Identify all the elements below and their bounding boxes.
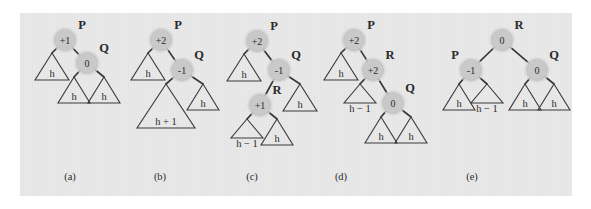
- subtree-height-label: h: [145, 68, 151, 79]
- subtree-height-label: h: [338, 68, 344, 79]
- subtree-height-label: h: [378, 131, 384, 142]
- panel-c: hhh − 1h+2P-1Q+1R(c): [227, 19, 317, 183]
- panel-caption: (c): [246, 171, 258, 183]
- subtree-height-label: h: [71, 91, 77, 102]
- subtree-height-label: h: [200, 98, 206, 109]
- panel-caption: (b): [154, 171, 167, 183]
- subtree-height-label: h: [297, 99, 303, 110]
- subtree-height-label: h: [551, 98, 557, 109]
- subtree-height-label: h: [49, 68, 55, 79]
- node-name-label: Q: [405, 81, 415, 95]
- panel-b: hh + 1h+2P-1Q(b): [131, 18, 219, 183]
- panel-d: hh − 1hh+2P+2R0Q(d): [324, 18, 427, 183]
- subtree-height-label: h + 1: [155, 116, 177, 127]
- subtree-height-label: h: [456, 98, 462, 109]
- subtree-height-label: h − 1: [236, 138, 258, 149]
- balance-factor-label: +2: [156, 35, 167, 46]
- diagram-layer: hhh+1P0Q(a)hh + 1h+2P-1Q(b)hhh − 1h+2P-1…: [35, 18, 570, 183]
- balance-factor-label: +2: [368, 65, 379, 76]
- balance-factor-label: 0: [85, 58, 90, 69]
- panel-a: hhh+1P0Q(a): [35, 18, 120, 183]
- subtree-height-label: h: [101, 91, 107, 102]
- node-name-label: R: [272, 83, 282, 97]
- node-name-label: Q: [194, 48, 204, 62]
- panel-caption: (d): [335, 171, 348, 183]
- subtree-triangle: [344, 84, 376, 103]
- subtree-height-label: h − 1: [476, 103, 498, 114]
- balance-factor-label: +2: [349, 35, 360, 46]
- balance-factor-label: +2: [252, 36, 263, 47]
- node-name-label: Q: [99, 41, 109, 55]
- node-name-label: P: [270, 19, 278, 33]
- node-name-label: Q: [291, 48, 301, 62]
- node-name-label: P: [367, 18, 375, 32]
- figure-drawing-canvas: hhh+1P0Q(a)hh + 1h+2P-1Q(b)hhh − 1h+2P-1…: [0, 0, 591, 209]
- subtree-height-label: h: [408, 131, 414, 142]
- balance-factor-label: -1: [178, 65, 186, 76]
- subtree-height-label: h: [274, 133, 280, 144]
- subtree-triangle: [471, 84, 503, 103]
- balance-factor-label: 0: [500, 35, 505, 46]
- tree-edge: [509, 46, 529, 63]
- subtree-triangle: [231, 119, 263, 138]
- node-name-label: Q: [549, 48, 559, 62]
- balance-factor-label: +1: [60, 35, 71, 46]
- subtree-height-label: h − 1: [349, 103, 371, 114]
- node-name-label: P: [174, 18, 182, 32]
- node-name-label: P: [78, 18, 86, 32]
- subtree-height-label: h: [241, 69, 247, 80]
- avl-rebalancing-figure: hhh+1P0Q(a)hh + 1h+2P-1Q(b)hhh − 1h+2P-1…: [0, 0, 591, 209]
- panel-caption: (a): [64, 171, 76, 183]
- balance-factor-label: -1: [275, 65, 283, 76]
- balance-factor-label: -1: [467, 65, 475, 76]
- node-name-label: R: [385, 48, 395, 62]
- balance-factor-label: 0: [391, 98, 396, 109]
- panel-e: hh − 1hh0R-1P0Q(e): [443, 18, 570, 183]
- subtree-height-label: h: [522, 98, 528, 109]
- node-name-label: P: [451, 48, 459, 62]
- balance-factor-label: 0: [535, 65, 540, 76]
- node-name-label: R: [514, 18, 524, 32]
- balance-factor-label: +1: [255, 100, 266, 111]
- panel-caption: (e): [466, 171, 478, 183]
